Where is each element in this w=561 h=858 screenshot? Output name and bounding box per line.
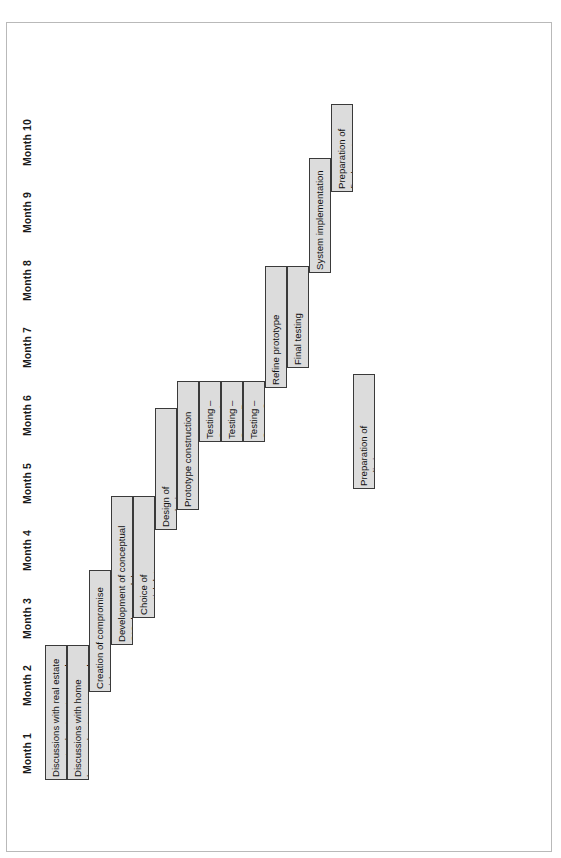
task-label-wrap: Design of analysis scheme: [156, 409, 176, 529]
task-label: Preparation of final report: [335, 109, 352, 189]
task-label-wrap: Discussions with real estate agents abou…: [46, 646, 66, 779]
month-tick-label-4: Month 4: [19, 497, 35, 571]
month-tick-label-6: Month 6: [19, 362, 35, 436]
task-bar[interactable]: Creation of compromise rich picture and …: [89, 570, 111, 692]
task-bar[interactable]: Preparation of preliminary report: [353, 374, 375, 489]
task-label: Preparation of preliminary report: [357, 379, 374, 486]
task-bar[interactable]: Testing – Group C Independent: [243, 381, 265, 442]
task-label: Final testing: [291, 271, 304, 364]
task-bar[interactable]: Preparation of final report: [331, 104, 353, 192]
month-tick-label-8: Month 8: [19, 227, 35, 301]
task-bar[interactable]: Development of conceptual GIS data model: [111, 496, 133, 645]
task-bar[interactable]: Refine prototype: [265, 266, 287, 388]
task-bar[interactable]: Final testing: [287, 266, 309, 367]
task-label: Creation of compromise rich picture and …: [93, 575, 110, 689]
task-label: System implementation: [313, 163, 326, 270]
figure-frame: Month 1Month 2Month 3Month 4Month 5Month…: [6, 22, 552, 852]
task-bar[interactable]: Testing – Group A Estate agents: [199, 381, 221, 442]
task-label: Design of analysis scheme: [159, 413, 176, 527]
month-tick-label-1: Month 1: [19, 700, 35, 774]
task-label: Testing – Group C Independent: [247, 386, 264, 439]
month-tick-label-2: Month 2: [19, 632, 35, 706]
month-tick-label-7: Month 7: [19, 294, 35, 368]
task-bar[interactable]: Choice of spatial data model: [133, 496, 155, 618]
task-label-wrap: Prototype construction: [178, 382, 198, 508]
task-bar[interactable]: System implementation: [309, 158, 331, 273]
task-bar[interactable]: Testing – Group B Home buyers: [221, 381, 243, 442]
task-label-wrap: System implementation: [310, 159, 330, 272]
task-label-wrap: Testing – Group C Independent: [244, 382, 264, 441]
task-label-wrap: Testing – Group B Home buyers: [222, 382, 242, 441]
task-bar[interactable]: Prototype construction: [177, 381, 199, 509]
task-label: Discussions with home buyers about syste…: [71, 650, 88, 777]
task-label: Testing – Group B Home buyers: [225, 386, 242, 439]
task-label: Refine prototype: [269, 271, 282, 385]
month-tick-label-3: Month 3: [19, 565, 35, 639]
task-label-wrap: Preparation of final report: [332, 105, 352, 191]
gantt-chart: Month 1Month 2Month 3Month 4Month 5Month…: [7, 23, 553, 853]
month-tick-label-10: Month 10: [19, 92, 35, 166]
task-label-wrap: Preparation of preliminary report: [354, 375, 374, 488]
task-label-wrap: Final testing: [288, 267, 308, 366]
task-label: Choice of spatial data model: [137, 501, 154, 615]
month-tick-label-5: Month 5: [19, 430, 35, 504]
task-label-wrap: Development of conceptual GIS data model: [112, 497, 132, 644]
task-label-wrap: Testing – Group A Estate agents: [200, 382, 220, 441]
task-label: Development of conceptual GIS data model: [115, 501, 132, 642]
task-bar[interactable]: Discussions with home buyers about syste…: [67, 645, 89, 780]
task-label-wrap: Choice of spatial data model: [134, 497, 154, 617]
task-bar[interactable]: Discussions with real estate agents abou…: [45, 645, 67, 780]
task-bar[interactable]: Design of analysis scheme: [155, 408, 177, 530]
task-label: Testing – Group A Estate agents: [203, 386, 220, 439]
task-label: Discussions with real estate agents abou…: [49, 650, 66, 777]
task-label: Prototype construction: [181, 386, 194, 506]
month-tick-label-9: Month 9: [19, 159, 35, 233]
task-label-wrap: Discussions with home buyers about syste…: [68, 646, 88, 779]
task-label-wrap: Creation of compromise rich picture and …: [90, 571, 110, 691]
task-label-wrap: Refine prototype: [266, 267, 286, 387]
